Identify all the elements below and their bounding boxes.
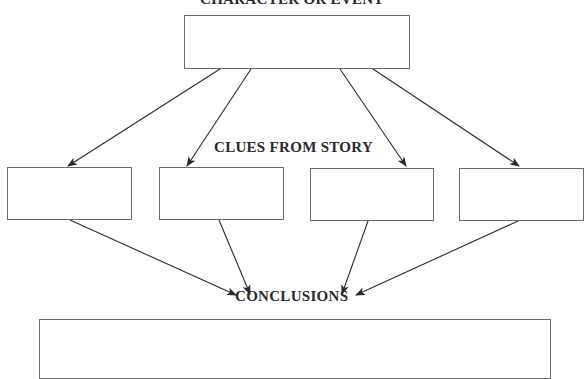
arrow-clue-2-to-conclusions [219, 220, 250, 294]
arrow-top-to-clue-3 [340, 69, 406, 166]
arrow-top-to-clue-4 [373, 69, 519, 166]
arrow-clue-3-to-conclusions [342, 221, 368, 294]
arrow-clue-4-to-conclusions [356, 221, 518, 295]
arrow-clue-1-to-conclusions [70, 220, 236, 295]
